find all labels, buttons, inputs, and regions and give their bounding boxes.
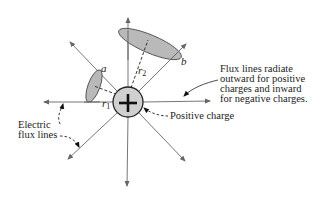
label-b: b (181, 55, 187, 67)
flux-line-down (127, 117, 128, 186)
label-electric-flux-lines: Electric flux lines (18, 120, 57, 140)
leader-charge (144, 108, 168, 116)
flux-line-down-left (68, 113, 117, 159)
label-r2: r2 (138, 64, 146, 78)
label-a: a (101, 62, 107, 74)
leader-flux-2 (60, 136, 79, 147)
flux-line-right (143, 101, 210, 102)
surface-b (115, 22, 185, 65)
leader-note (184, 80, 218, 96)
note-flux-direction: Flux lines radiate outward for positive … (220, 64, 308, 104)
label-positive-charge: Positive charge (170, 110, 234, 121)
leader-flux-1 (59, 104, 63, 124)
label-r1: r1 (102, 97, 110, 111)
